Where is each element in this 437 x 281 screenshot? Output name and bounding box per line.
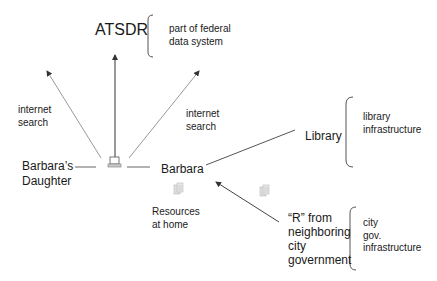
atsdr-bracket [148,15,153,57]
city-note-line: gov. [363,230,421,243]
edge-label-line: internet [18,104,51,117]
node-library-label: Library [305,129,342,143]
library-note-line: infrastructure [363,124,421,137]
library-note-line: library [363,111,421,124]
node-city-line: “R” from [288,212,351,226]
node-daughter: Barbara’s Daughter [22,159,73,188]
node-resources-line: at home [152,219,200,232]
city-note: city gov. infrastructure [363,217,421,255]
node-barbara-label: Barbara [161,162,204,176]
arrow-internet-search-left [47,71,101,158]
node-daughter-line: Daughter [22,174,73,189]
atsdr-note: part of federal data system [169,23,231,48]
atsdr-note-line: part of federal [169,23,231,36]
node-city-line: city [288,240,351,254]
node-library: Library [305,129,342,144]
node-city-government: “R” from neighboring city government [288,212,351,268]
edge-label-internet-search-left: internet search [18,104,51,129]
node-resources: Resources at home [152,206,200,231]
edge-label-line: search [18,117,51,130]
node-atsdr-label: ATSDR [95,21,148,38]
document-icon [260,185,269,196]
link-barbara-library [206,130,295,165]
node-barbara: Barbara [161,162,204,177]
city-note-line: city [363,217,421,230]
node-city-line: government [288,254,351,268]
node-city-line: neighboring [288,226,351,240]
node-atsdr: ATSDR [95,21,148,40]
atsdr-note-line: data system [169,36,231,49]
city-note-line: infrastructure [363,242,421,255]
library-bracket [346,97,353,167]
edge-label-internet-search-right: internet search [186,108,219,133]
computer-icon [108,157,121,167]
arrow-city-to-barbara [216,182,279,222]
edge-label-line: search [186,121,219,134]
node-daughter-line: Barbara’s [22,159,73,174]
library-note: library infrastructure [363,111,421,136]
document-icon [174,183,183,194]
edge-label-line: internet [186,108,219,121]
node-resources-line: Resources [152,206,200,219]
diagram-canvas: ATSDR part of federal data system intern… [0,0,437,281]
